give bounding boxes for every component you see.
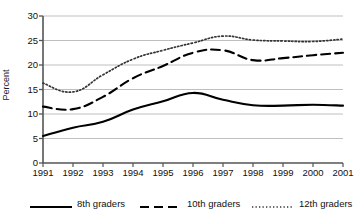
x-tick-label: 2000 (296, 168, 330, 178)
legend-swatch-dotted (252, 198, 294, 208)
x-tick-label: 1994 (116, 168, 150, 178)
x-tick-label: 1997 (206, 168, 240, 178)
series-line-12th-graders (43, 36, 343, 92)
x-tick-label: 1996 (176, 168, 210, 178)
plot-area (0, 0, 364, 219)
legend-item-12th: 12th graders (252, 192, 352, 214)
x-tick-label: 2001 (326, 168, 360, 178)
x-tick-label: 1993 (86, 168, 120, 178)
series-line-8th-graders (43, 93, 343, 136)
line-chart: Percent 30 25 20 15 10 5 0 1991199219931… (0, 0, 364, 219)
legend-item-8th: 8th graders (30, 192, 125, 214)
legend-label-10th: 10th graders (187, 198, 240, 209)
data-series-layer (43, 36, 343, 136)
series-line-10th-graders (43, 49, 343, 109)
x-tick-label: 1998 (236, 168, 270, 178)
legend-label-12th: 12th graders (299, 198, 352, 209)
legend-swatch-dashed (140, 198, 182, 208)
x-tick-label: 1995 (146, 168, 180, 178)
x-tick-label: 1991 (26, 168, 60, 178)
legend-item-10th: 10th graders (140, 192, 240, 214)
gridlines (43, 16, 343, 139)
legend-label-8th: 8th graders (77, 198, 125, 209)
x-tick-label: 1992 (56, 168, 90, 178)
legend-swatch-solid (30, 198, 72, 208)
x-tick-label: 1999 (266, 168, 300, 178)
chart-legend: 8th graders 10th graders 12th graders (0, 192, 364, 214)
